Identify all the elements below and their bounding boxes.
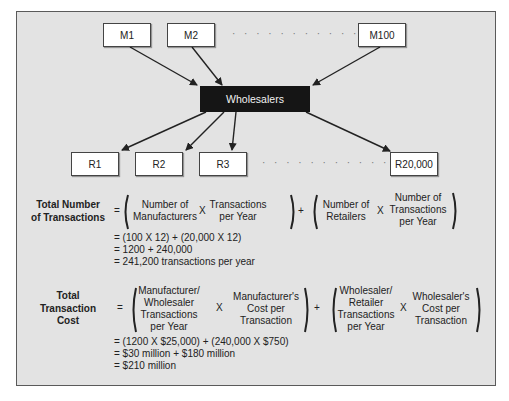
term-line: Wholesaler's	[408, 291, 474, 303]
term-line: per Year	[388, 216, 448, 228]
manufacturer-node-m1: M1	[103, 23, 151, 47]
manufacturer-node-m100: M100	[358, 23, 406, 47]
cost-label-line: Cost	[30, 315, 106, 328]
wholesaler-retailer-transactions: Wholesaler/ Retailer Transactions per Ye…	[334, 285, 398, 333]
term-line: Transactions	[388, 204, 448, 216]
equals-sign: =	[114, 205, 120, 217]
term-line: Cost per	[408, 303, 474, 315]
term-line: Wholesaler	[134, 297, 204, 309]
times-sign: X	[400, 302, 407, 314]
manufacturer-cost-per-transaction: Manufacturer's Cost per Transaction	[228, 291, 304, 327]
transactions-label-line: Total Number	[30, 199, 106, 212]
term-line: Transaction	[408, 315, 474, 327]
plus-sign: +	[314, 302, 320, 314]
times-sign: X	[216, 302, 223, 314]
term-line: per Year	[208, 211, 268, 223]
equals-sign: =	[117, 302, 123, 314]
cost-label-line: Total	[30, 290, 106, 303]
close-paren	[304, 287, 311, 333]
term-line: Cost per	[228, 303, 304, 315]
times-sign: X	[199, 205, 206, 217]
transactions-result: = 241,200 transactions per year	[114, 256, 255, 268]
number-of-retailers: Number of Retailers	[318, 199, 374, 223]
cost-step: = $30 million + $180 million	[114, 348, 235, 360]
term-line: Number of	[130, 199, 200, 211]
cost-step: = (1200 X $25,000) + (240,000 X $750)	[114, 336, 289, 348]
close-paren	[476, 287, 483, 333]
term-line: per Year	[134, 321, 204, 333]
term-line: Manufacturer's	[228, 291, 304, 303]
term-line: Retailer	[334, 297, 398, 309]
wholesaler-cost-per-transaction: Wholesaler's Cost per Transaction	[408, 291, 474, 327]
term-line: Number of	[318, 199, 374, 211]
close-paren	[452, 192, 459, 230]
transactions-per-year: Transactions per Year	[208, 199, 268, 223]
term-line: Manufacturer/	[134, 285, 204, 297]
retailer-node-r2: R2	[135, 152, 183, 176]
wholesalers-node: Wholesalers	[200, 86, 310, 112]
cost-label: Total Transaction Cost	[30, 290, 106, 328]
manufacturer-node-m2: M2	[167, 23, 215, 47]
number-of-manufacturers: Number of Manufacturers	[130, 199, 200, 223]
transactions-step: = (100 X 12) + (20,000 X 12)	[114, 232, 241, 244]
retailer-transactions-per-year: Number of Transactions per Year	[388, 192, 448, 228]
times-sign: X	[377, 205, 384, 217]
cost-label-line: Transaction	[30, 303, 106, 316]
manufacturer-wholesaler-transactions: Manufacturer/ Wholesaler Transactions pe…	[134, 285, 204, 333]
term-line: Transaction	[228, 315, 304, 327]
close-paren	[290, 194, 297, 230]
transactions-label: Total Number of Transactions	[30, 199, 106, 224]
transactions-step: = 1200 + 240,000	[114, 244, 192, 256]
term-line: Wholesaler/	[334, 285, 398, 297]
term-line: Retailers	[318, 211, 374, 223]
term-line: Transactions	[208, 199, 268, 211]
term-line: Manufacturers	[130, 211, 200, 223]
term-line: Transactions	[334, 309, 398, 321]
plus-sign: +	[298, 205, 304, 217]
retailer-node-r20000: R20,000	[390, 152, 438, 176]
retailer-node-r3: R3	[199, 152, 247, 176]
term-line: Number of	[388, 192, 448, 204]
term-line: per Year	[334, 321, 398, 333]
transactions-label-line: of Transactions	[30, 212, 106, 225]
term-line: Transactions	[134, 309, 204, 321]
retailer-node-r1: R1	[71, 152, 119, 176]
open-paren	[122, 194, 129, 230]
open-paren	[311, 194, 318, 230]
cost-result: = $210 million	[114, 360, 176, 372]
